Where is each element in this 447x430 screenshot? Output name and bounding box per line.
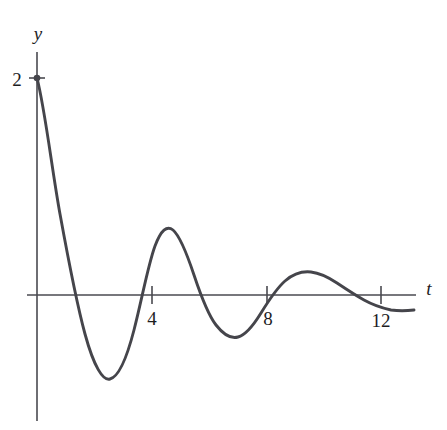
- x-tick-label-4: 4: [147, 308, 157, 329]
- y-axis-label: y: [32, 23, 43, 44]
- x-tick-label-8: 8: [263, 308, 273, 329]
- chart-canvas: 2 4 8 12 y t: [0, 0, 447, 430]
- damped-oscillation-figure: 2 4 8 12 y t: [0, 0, 447, 430]
- start-point-marker: [34, 75, 41, 82]
- x-tick-label-12: 12: [372, 310, 391, 331]
- t-axis-label: t: [426, 278, 432, 299]
- y-tick-label-2: 2: [12, 69, 22, 90]
- damped-oscillation-curve: [37, 78, 414, 379]
